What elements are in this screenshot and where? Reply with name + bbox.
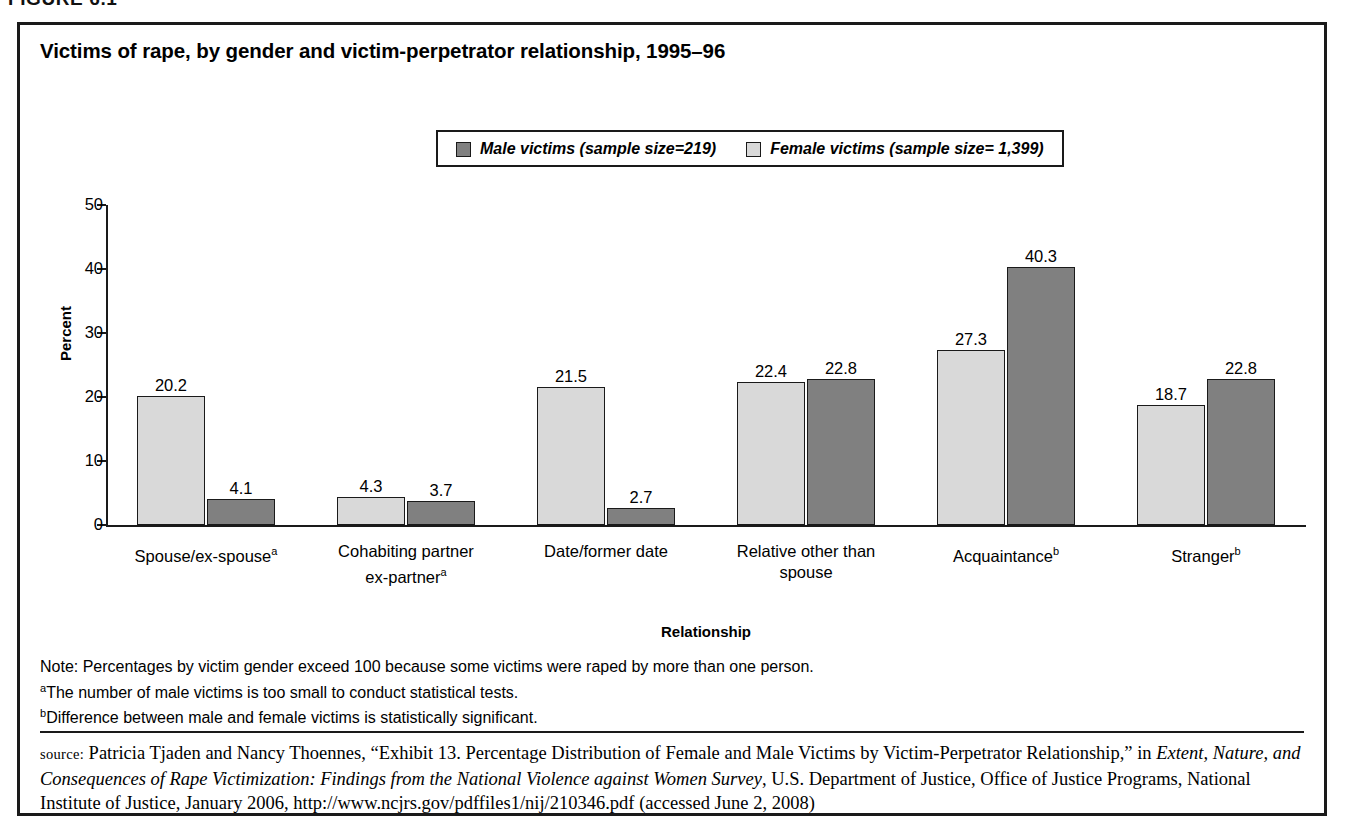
legend-item-female: Female victims (sample size= 1,399)	[746, 140, 1043, 158]
x-axis	[106, 525, 1306, 527]
footnote-a-text: The number of male victims is too small …	[46, 684, 518, 701]
y-tick-label: 30	[63, 323, 103, 342]
bar-female	[737, 382, 805, 525]
notes-source-divider	[40, 731, 1304, 733]
bar-value-label: 22.8	[807, 359, 875, 378]
x-axis-title: Relationship	[106, 623, 1306, 640]
y-tick-label: 10	[63, 451, 103, 470]
bar-male	[1007, 267, 1075, 525]
figure-number: FIGURE 6.1	[8, 0, 117, 10]
bar-value-label: 3.7	[407, 481, 475, 500]
plot-area: Percent 01020304050 20.24.14.33.721.52.7…	[106, 205, 1306, 525]
figure-frame: Victims of rape, by gender and victim-pe…	[17, 22, 1327, 816]
bar-male	[607, 508, 675, 525]
bar-value-label: 18.7	[1137, 385, 1205, 404]
bar-male	[1207, 379, 1275, 525]
chart-legend: Male victims (sample size=219) Female vi…	[436, 130, 1064, 167]
footnote-a: aThe number of male victims is too small…	[40, 678, 1300, 704]
y-tick-label: 40	[63, 259, 103, 278]
legend-swatch-male	[456, 142, 471, 157]
source-block: source: Patricia Tjaden and Nancy Thoenn…	[40, 741, 1308, 816]
legend-label-male: Male victims (sample size=219)	[480, 140, 716, 158]
chart-notes: Note: Percentages by victim gender excee…	[40, 657, 1300, 729]
bar-male	[407, 501, 475, 525]
x-category-label: Date/former date	[506, 541, 706, 562]
source-part-1: Patricia Tjaden and Nancy Thoennes, “Exh…	[84, 743, 1156, 763]
bar-male	[207, 499, 275, 525]
x-category-label: Relative other thanspouse	[706, 541, 906, 583]
legend-label-female: Female victims (sample size= 1,399)	[770, 140, 1043, 158]
x-category-label: Acquaintanceb	[906, 541, 1106, 567]
bar-female	[1137, 405, 1205, 525]
bar-male	[807, 379, 875, 525]
bar-female	[937, 350, 1005, 525]
source-label: source:	[40, 746, 84, 762]
bar-value-label: 27.3	[937, 330, 1005, 349]
legend-swatch-female	[746, 142, 761, 157]
y-tick-label: 0	[63, 515, 103, 534]
y-tick-label: 20	[63, 387, 103, 406]
bar-value-label: 22.8	[1207, 359, 1275, 378]
bar-value-label: 21.5	[537, 367, 605, 386]
x-category-label: Cohabiting partnerex-partnera	[306, 541, 506, 588]
bar-value-label: 40.3	[1007, 247, 1075, 266]
chart-title: Victims of rape, by gender and victim-pe…	[40, 39, 725, 63]
bar-female	[537, 387, 605, 525]
bar-value-label: 2.7	[607, 488, 675, 507]
y-axis	[106, 205, 108, 525]
bar-value-label: 4.3	[337, 477, 405, 496]
bar-value-label: 4.1	[207, 479, 275, 498]
note-line: Note: Percentages by victim gender excee…	[40, 657, 1300, 678]
x-category-label: Spouse/ex-spousea	[106, 541, 306, 567]
bar-female	[337, 497, 405, 525]
bar-value-label: 20.2	[137, 376, 205, 395]
y-tick-label: 50	[63, 195, 103, 214]
bar-value-label: 22.4	[737, 362, 805, 381]
x-category-label: Strangerb	[1106, 541, 1306, 567]
footnote-b: bDifference between male and female vict…	[40, 703, 1300, 729]
bar-female	[137, 396, 205, 525]
legend-item-male: Male victims (sample size=219)	[456, 140, 716, 158]
footnote-b-text: Difference between male and female victi…	[46, 710, 537, 727]
